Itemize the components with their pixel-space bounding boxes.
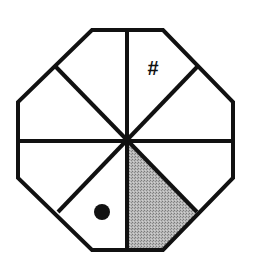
- dot-symbol: [94, 204, 110, 220]
- hash-symbol: #: [147, 57, 158, 79]
- shaded-sector: [127, 141, 197, 250]
- octagon-diagram: #: [0, 0, 253, 269]
